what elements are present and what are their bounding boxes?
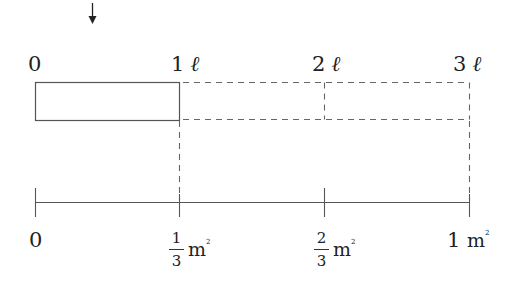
- denominator: 3: [317, 254, 327, 269]
- bottom-label-one: 1 m2: [447, 230, 490, 251]
- liter-unit: ℓ: [190, 52, 199, 76]
- unit-sup: 2: [206, 238, 210, 246]
- unit-sup: 2: [351, 238, 355, 246]
- top-label-1: 1ℓ: [171, 54, 199, 75]
- square-meter-unit: m2: [467, 229, 490, 251]
- bottom-label-0-value: 0: [29, 228, 42, 252]
- square-meter-unit: m2: [188, 238, 211, 260]
- liter-unit: ℓ: [331, 52, 340, 76]
- top-label-0-value: 0: [28, 52, 41, 76]
- top-label-2: 2ℓ: [312, 54, 340, 75]
- bottom-label-one-third: 1 3 m2: [169, 231, 211, 269]
- numerator: 2: [317, 231, 327, 246]
- diagram-canvas: 0 1ℓ 2ℓ 3ℓ 0 1 3 m2 2 3 m2 1 m2: [0, 0, 513, 281]
- square-meter-unit: m2: [333, 238, 356, 260]
- denominator: 3: [172, 254, 182, 269]
- fraction-bar: [314, 249, 329, 250]
- top-label-2-value: 2: [312, 52, 325, 76]
- number-line: [36, 188, 470, 217]
- down-arrow-icon: [89, 3, 97, 24]
- dashed-sections: [180, 83, 470, 201]
- top-label-3: 3ℓ: [453, 54, 481, 75]
- unit-m: m: [467, 229, 485, 251]
- numerator: 1: [172, 231, 182, 246]
- unit-m: m: [188, 238, 206, 260]
- diagram-svg: [0, 0, 513, 281]
- filled-section-rect: [36, 83, 180, 121]
- bottom-label-3-value: 1: [447, 228, 460, 252]
- fraction-one-third: 1 3: [169, 231, 184, 269]
- fraction-two-thirds: 2 3: [314, 231, 329, 269]
- top-label-0: 0: [28, 54, 41, 75]
- unit-sup: 2: [485, 229, 489, 237]
- top-label-1-value: 1: [171, 52, 184, 76]
- bottom-label-two-thirds: 2 3 m2: [314, 231, 356, 269]
- top-label-3-value: 3: [453, 52, 466, 76]
- liter-unit: ℓ: [472, 52, 481, 76]
- fraction-bar: [169, 249, 184, 250]
- bottom-label-0: 0: [29, 230, 42, 251]
- unit-m: m: [333, 238, 351, 260]
